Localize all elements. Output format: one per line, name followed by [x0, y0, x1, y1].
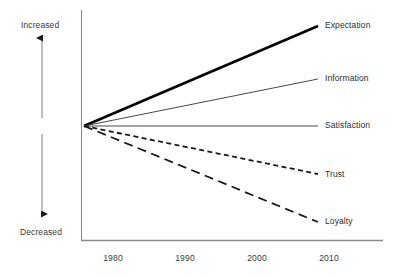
- x-tick-label-1990: 1990: [165, 254, 205, 263]
- series-line-information: [84, 79, 318, 126]
- x-tick-label-2010: 2010: [309, 254, 349, 263]
- series-line-loyalty: [84, 126, 318, 222]
- series-label-satisfaction: Satisfaction: [325, 121, 370, 130]
- series-label-loyalty: Loyalty: [325, 217, 353, 226]
- chart-figure: Increased Decreased Expectation: [0, 0, 394, 278]
- series-label-trust: Trust: [325, 170, 345, 179]
- series-label-information: Information: [325, 74, 369, 83]
- series-line-expectation: [84, 26, 318, 126]
- x-tick-label-2000: 2000: [237, 254, 277, 263]
- chart-plot-svg: [0, 0, 394, 278]
- series-line-trust: [84, 126, 318, 174]
- series-label-expectation: Expectation: [325, 21, 371, 30]
- x-tick-label-1980: 1980: [93, 254, 133, 263]
